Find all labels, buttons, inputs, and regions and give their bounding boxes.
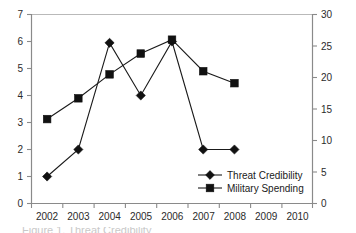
data-point-2005 (137, 50, 145, 58)
left-tick-label-7: 7 (17, 9, 23, 20)
chart-container: 0 1 2 3 4 5 6 7 0 5 10 15 20 25 30 (0, 0, 356, 233)
left-axis-ticks: 0 1 2 3 4 5 6 7 (17, 9, 31, 209)
figure-caption-strip: Figure 1. Threat Credibility (0, 227, 356, 233)
data-point-2008 (231, 79, 239, 87)
x-tick-label-2005: 2005 (130, 211, 153, 222)
x-tick-label-2006: 2006 (161, 211, 184, 222)
left-tick-label-5: 5 (17, 63, 23, 74)
x-tick-label-2004: 2004 (99, 211, 122, 222)
figure-caption: Figure 1. Threat Credibility (22, 227, 151, 233)
data-point-2002 (43, 115, 51, 123)
legend-square-icon (206, 184, 214, 192)
right-tick-label-30: 30 (321, 9, 333, 20)
data-point-2004 (106, 71, 114, 79)
chart-legend: Threat Credibility Military Spending (198, 170, 304, 194)
data-point-2007 (199, 67, 207, 75)
x-axis-ticks: 2002 2003 2004 2005 2006 2007 2008 2009 … (32, 203, 313, 222)
x-tick-label-2007: 2007 (192, 211, 215, 222)
left-tick-label-1: 1 (17, 171, 23, 182)
series-threat-credibility (43, 37, 240, 181)
data-point-2008 (230, 145, 239, 154)
right-tick-label-15: 15 (321, 104, 333, 115)
right-tick-label-20: 20 (321, 72, 333, 83)
x-tick-label-2010: 2010 (286, 211, 309, 222)
x-tick-label-2002: 2002 (36, 211, 59, 222)
data-point-2003 (75, 94, 83, 102)
line-chart: 0 1 2 3 4 5 6 7 0 5 10 15 20 25 30 (0, 0, 356, 233)
x-tick-label-2009: 2009 (255, 211, 278, 222)
data-point-2005 (136, 91, 145, 100)
left-tick-label-6: 6 (17, 36, 23, 47)
legend-label-military-spending: Military Spending (227, 183, 304, 194)
left-tick-label-4: 4 (17, 90, 23, 101)
series-military-spending (43, 36, 238, 123)
data-point-2006 (168, 36, 176, 44)
right-tick-label-5: 5 (321, 167, 327, 178)
data-point-2007 (199, 145, 208, 154)
x-tick-label-2008: 2008 (224, 211, 247, 222)
data-point-2004 (105, 38, 114, 47)
left-tick-label-2: 2 (17, 144, 23, 155)
right-tick-label-0: 0 (321, 198, 327, 209)
legend-label-threat-credibility: Threat Credibility (227, 170, 303, 181)
left-tick-label-3: 3 (17, 117, 23, 128)
series-line-0 (47, 42, 234, 177)
right-tick-label-25: 25 (321, 41, 333, 52)
right-axis-ticks: 0 5 10 15 20 25 30 (313, 9, 333, 209)
right-tick-label-10: 10 (321, 135, 333, 146)
left-tick-label-0: 0 (17, 198, 23, 209)
series-layer (43, 36, 240, 181)
legend-diamond-icon (206, 171, 215, 180)
x-tick-label-2003: 2003 (67, 211, 90, 222)
